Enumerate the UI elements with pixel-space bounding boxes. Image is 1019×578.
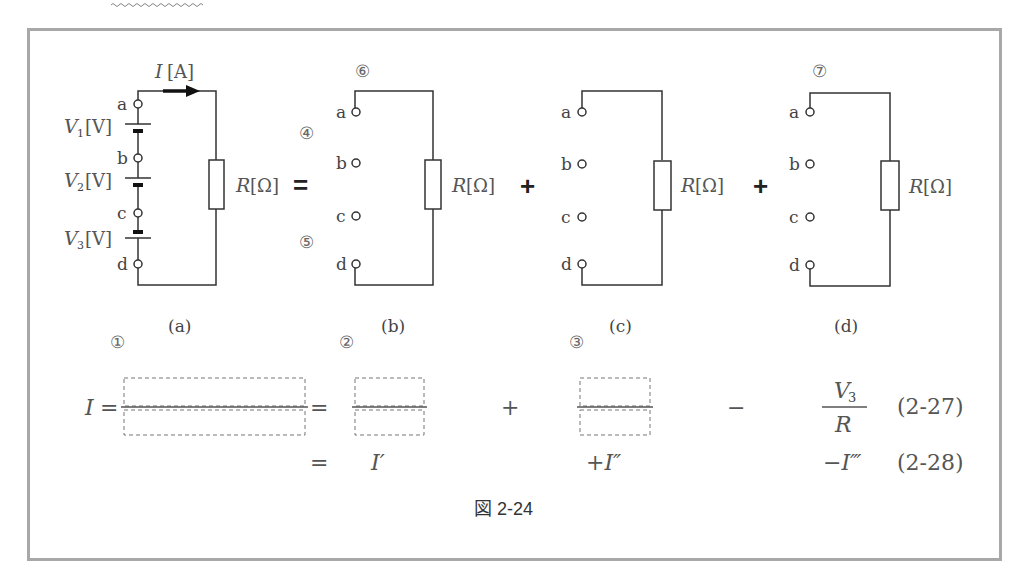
plus-operator-2: + [753,171,768,201]
resistor-d [881,161,899,210]
figure-caption: 図 2-24 [474,499,533,519]
term-I-triple-prime: −I‴ [823,450,862,475]
terminal-c [578,213,586,221]
eq-lhs-I: I [84,395,95,420]
resistor-d-label-italic: R [908,175,923,197]
equation-2-27: ① ② ③ I = = + − V 3 R (2-27) [84,332,964,437]
resistor-b [425,160,441,209]
blank-marker-3: ③ [569,332,584,352]
circuit-b-caption: (b) [381,316,405,336]
current-arrow-icon [186,85,200,97]
resistor-c-label-italic: R [680,174,695,196]
v1-subscript: 1 [77,127,84,140]
terminal-b [352,159,360,167]
circuit-d-caption: (d) [834,316,858,336]
terminal-label-c: c [789,207,799,227]
terminal-label-b: b [561,154,572,174]
resistor-a [209,160,224,209]
battery-v2-short-plate [133,183,143,187]
terminal-label-a: a [336,102,346,122]
v2-subscript: 2 [77,181,84,194]
terminal-c [352,212,360,220]
terminal-label-a: a [117,94,127,114]
terminal-a [352,108,360,116]
terminal-label-c: c [336,206,346,226]
terminal-label-d: d [561,254,572,274]
terminal-label-b: b [789,154,800,174]
plus-sign: + [501,395,519,420]
circuit-c-caption: (c) [609,316,632,336]
blank-denominator-3 [580,410,650,435]
terminal-label-d: d [117,254,128,274]
resistor-c-label-unit: [Ω] [695,175,724,196]
v2-unit: [V] [85,170,112,191]
terminal-label-a: a [789,102,799,122]
terminal-a [578,108,586,116]
terminal-d [806,261,814,269]
terminal-b [806,160,814,168]
term-I-prime: I′ [370,450,385,475]
resistor-d-label-unit: [Ω] [923,176,952,197]
battery-v1-short-plate [133,129,143,133]
circuit-d: ⑦ a b c d R [Ω] (d) [789,61,952,336]
equation-number-2-27: (2-27) [897,394,964,419]
terminal-label-d: d [336,254,347,274]
terminal-b [134,154,142,162]
terminal-label-b: b [117,148,128,168]
v3-unit: [V] [85,228,112,249]
resistor-c [654,161,671,210]
fraction-denominator-R: R [834,412,852,437]
blank-marker-2: ② [339,332,354,352]
terminal-a [134,100,142,108]
current-label-unit: [A] [167,61,194,82]
terminal-label-c: c [561,207,571,227]
battery-v3-short-plate [133,230,143,234]
equals-operator: = [293,170,308,200]
eq-sign-3: = [310,450,328,475]
terminal-label-b: b [336,153,347,173]
circuit-a: I [A] a V 1 [V] b V 2 [V] c V 3 [V] [64,60,279,336]
current-label-italic: I [154,60,163,82]
blank-denominator-2 [355,410,424,435]
resistor-b-label-italic: R [451,174,466,196]
blank-marker-5: ⑤ [299,232,314,252]
blank-numerator-3 [580,378,650,406]
blank-marker-1: ① [110,332,125,352]
terminal-d [134,260,142,268]
resistor-a-label-italic: R [235,174,250,196]
eq-sign-1: = [100,395,118,420]
equation-number-2-28: (2-28) [897,450,964,475]
term-I-double-prime: +I″ [586,450,622,475]
equation-2-28: = I′ +I″ −I‴ (2-28) [310,450,964,475]
plus-operator-1: + [520,171,535,201]
circuit-b: ⑥ ④ ⑤ a b c d R [Ω] (b) [299,61,495,336]
blank-marker-4: ④ [299,123,314,143]
fraction-numerator-sub: 3 [848,390,856,405]
circuit-a-caption: (a) [168,316,191,336]
v3-subscript: 3 [77,239,84,252]
blank-marker-6: ⑥ [355,61,370,81]
circuit-c: a b c d R [Ω] (c) [561,91,724,336]
blank-numerator-1 [124,378,305,406]
resistor-a-label-unit: [Ω] [250,175,279,196]
blank-denominator-1 [124,410,305,435]
terminal-d [352,260,360,268]
circuit-diagram: .w { stroke: #333; stroke-width: 1.5; fi… [0,0,1019,578]
v1-unit: [V] [85,116,112,137]
terminal-label-d: d [789,255,800,275]
blank-numerator-2 [355,378,424,406]
terminal-c [806,213,814,221]
terminal-a [806,108,814,116]
terminal-label-c: c [117,203,127,223]
terminal-b [578,160,586,168]
terminal-label-a: a [561,102,571,122]
terminal-d [578,260,586,268]
blank-marker-7: ⑦ [812,61,827,81]
resistor-b-label-unit: [Ω] [466,175,495,196]
terminal-c [134,209,142,217]
eq-sign-2: = [310,395,328,420]
minus-sign: − [727,395,745,420]
